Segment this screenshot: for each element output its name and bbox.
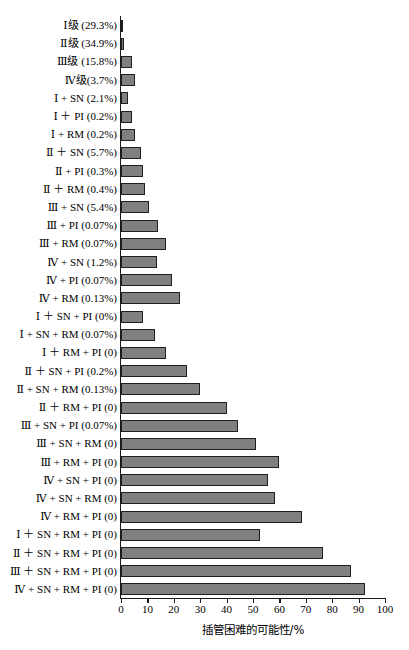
bar <box>121 74 135 86</box>
bar-category-label: Ⅱ + PI (0.3%) <box>0 165 117 178</box>
bar-category-label: Ⅳ + RM + PI (0) <box>0 510 117 523</box>
bar <box>121 20 123 32</box>
x-axis-tick-label: 0 <box>118 603 124 616</box>
bar-category-label: Ⅲ + PI (0.07%) <box>0 219 117 232</box>
bar-row: Ⅰ ＋ SN + PI (0%) <box>0 308 409 327</box>
bar-row: Ⅳ + RM (0.13%) <box>0 289 409 308</box>
bar <box>121 529 260 541</box>
bar-row: Ⅱ + SN + RM (0.13%) <box>0 380 409 399</box>
bar-row: Ⅳ + SN + RM (0) <box>0 489 409 508</box>
bar-category-label: Ⅱ ＋ SN + RM + PI (0) <box>0 547 117 560</box>
bar-row: Ⅰ + RM (0.2%) <box>0 126 409 145</box>
bar-category-label: Ⅳ + PI (0.07%) <box>0 274 117 287</box>
bar-category-label: Ⅳ + SN + PI (0) <box>0 474 117 487</box>
bar-row: Ⅱ ＋ SN + PI (0.2%) <box>0 362 409 381</box>
bar-row: Ⅰ ＋ PI (0.2%) <box>0 107 409 126</box>
bar-category-label: Ⅳ级(3.7%) <box>0 74 117 87</box>
bar-category-label: Ⅳ + SN + RM + PI (0) <box>0 583 117 596</box>
bar-row: Ⅳ + SN + PI (0) <box>0 471 409 490</box>
bar <box>121 183 145 195</box>
bar-row: Ⅲ + SN (5.4%) <box>0 198 409 217</box>
x-axis-tick-label: 90 <box>353 603 364 616</box>
bar-row: Ⅰ级 (29.3%) <box>0 17 409 36</box>
bar <box>121 38 124 50</box>
bar-category-label: Ⅲ + SN (5.4%) <box>0 201 117 214</box>
x-axis-tick-label: 60 <box>274 603 285 616</box>
bar-row: Ⅱ ＋ SN (5.7%) <box>0 144 409 163</box>
bar-category-label: Ⅰ + SN + RM (0.07%) <box>0 328 117 341</box>
x-axis-tick-label: 70 <box>300 603 311 616</box>
bar <box>121 129 135 141</box>
bar-row: Ⅰ + SN + RM (0.07%) <box>0 326 409 345</box>
bar <box>121 238 166 250</box>
bar <box>121 311 143 323</box>
bar-row: Ⅳ + PI (0.07%) <box>0 271 409 290</box>
bar <box>121 111 132 123</box>
bar-row: Ⅳ级(3.7%) <box>0 71 409 90</box>
bar-category-label: Ⅱ ＋ RM (0.4%) <box>0 183 117 196</box>
bar <box>121 383 200 395</box>
bar <box>121 420 238 432</box>
bar <box>121 365 187 377</box>
bar-row: Ⅱ级 (34.9%) <box>0 35 409 54</box>
bar <box>121 256 157 268</box>
bar-category-label: Ⅰ ＋ SN + PI (0%) <box>0 310 117 323</box>
bar-category-label: Ⅲ + RM (0.07%) <box>0 237 117 250</box>
bar <box>121 456 279 468</box>
x-axis-tick-label: 30 <box>195 603 206 616</box>
bar-row: Ⅲ + RM + PI (0) <box>0 453 409 472</box>
x-axis-tick-label: 20 <box>168 603 179 616</box>
bar <box>121 402 227 414</box>
bar-category-label: Ⅲ级 (15.8%) <box>0 55 117 68</box>
bar-row: Ⅲ + PI (0.07%) <box>0 217 409 236</box>
bar <box>121 565 351 577</box>
bar <box>121 147 141 159</box>
bar-category-label: Ⅲ + RM + PI (0) <box>0 456 117 469</box>
bar-chart: Ⅰ级 (29.3%)Ⅱ级 (34.9%)Ⅲ级 (15.8%)Ⅳ级(3.7%)Ⅰ … <box>0 0 409 650</box>
bar-row: Ⅱ + PI (0.3%) <box>0 162 409 181</box>
bar-category-label: Ⅱ ＋ SN (5.7%) <box>0 146 117 159</box>
bar <box>121 474 268 486</box>
bar <box>121 165 143 177</box>
bar-category-label: Ⅲ + SN + RM (0) <box>0 437 117 450</box>
bar-category-label: Ⅰ + RM (0.2%) <box>0 128 117 141</box>
bar-category-label: Ⅳ + RM (0.13%) <box>0 292 117 305</box>
bar <box>121 583 365 595</box>
bar-row: Ⅳ + SN + RM + PI (0) <box>0 580 409 599</box>
bar-category-label: Ⅳ + SN (1.2%) <box>0 256 117 269</box>
x-axis-tick-label: 80 <box>327 603 338 616</box>
bar-row: Ⅳ + SN (1.2%) <box>0 253 409 272</box>
bar-row: Ⅲ + SN + RM (0) <box>0 435 409 454</box>
bar <box>121 547 323 559</box>
bar-row: Ⅱ ＋ SN + RM + PI (0) <box>0 544 409 563</box>
bar-row: Ⅲ级 (15.8%) <box>0 53 409 72</box>
bar-row: Ⅱ ＋ RM (0.4%) <box>0 180 409 199</box>
x-axis-tick-label: 100 <box>377 603 394 616</box>
bar-category-label: Ⅰ ＋ RM + PI (0) <box>0 346 117 359</box>
bar <box>121 292 180 304</box>
bar-category-label: Ⅲ ＋ SN + RM + PI (0) <box>0 565 117 578</box>
bar-category-label: Ⅰ ＋ PI (0.2%) <box>0 110 117 123</box>
bar <box>121 92 128 104</box>
bar <box>121 347 166 359</box>
bar-category-label: Ⅱ + SN + RM (0.13%) <box>0 383 117 396</box>
bar-category-label: Ⅱ ＋ RM + PI (0) <box>0 401 117 414</box>
bar <box>121 274 172 286</box>
bar <box>121 220 158 232</box>
x-axis-tick-label: 50 <box>248 603 259 616</box>
bar <box>121 511 302 523</box>
bar-category-label: Ⅳ + SN + RM (0) <box>0 492 117 505</box>
bar <box>121 56 132 68</box>
x-axis-tick-label: 40 <box>221 603 232 616</box>
bar <box>121 438 256 450</box>
bar-category-label: Ⅱ级 (34.9%) <box>0 37 117 50</box>
bar <box>121 201 149 213</box>
bar-row: Ⅰ + SN (2.1%) <box>0 89 409 108</box>
bar-category-label: Ⅰ级 (29.3%) <box>0 19 117 32</box>
bar-row: Ⅳ + RM + PI (0) <box>0 508 409 527</box>
bar-category-label: Ⅰ + SN (2.1%) <box>0 92 117 105</box>
bar-row: Ⅲ + SN + PI (0.07%) <box>0 417 409 436</box>
bar-row: Ⅱ ＋ RM + PI (0) <box>0 398 409 417</box>
bar <box>121 492 275 504</box>
x-axis-tick-label: 10 <box>142 603 153 616</box>
